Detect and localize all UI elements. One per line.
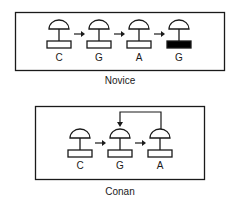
stamp-base — [127, 41, 151, 48]
stamp: A — [127, 20, 151, 63]
feedback-loop-arrow — [120, 112, 161, 129]
arrow-head — [142, 140, 146, 146]
stamp-letter: G — [116, 160, 124, 171]
stamp-base-filled — [167, 41, 191, 48]
stamp-base — [68, 150, 92, 157]
stamp: G — [108, 129, 132, 171]
stamp-base — [47, 41, 71, 48]
conan-panel: CGA Conan — [36, 107, 205, 198]
stamp: G — [87, 20, 111, 63]
stamp-letter: A — [157, 160, 164, 171]
stamp-dome — [169, 20, 189, 29]
stamp-dome — [129, 20, 149, 29]
novice-stamps: CGAG — [47, 20, 191, 63]
stamp-base — [108, 150, 132, 157]
stamp-dome — [49, 20, 69, 29]
stamp-dome — [89, 20, 109, 29]
arrow-head — [81, 31, 85, 37]
arrow-head — [117, 122, 123, 127]
novice-caption: Novice — [105, 75, 136, 86]
stamp-letter: G — [95, 52, 103, 63]
conan-stamps: CGA — [68, 112, 172, 171]
arrow-head — [161, 31, 165, 37]
stamp-dome — [110, 129, 130, 138]
stamp: A — [148, 129, 172, 171]
conan-caption: Conan — [105, 186, 134, 197]
stamp: C — [68, 129, 92, 171]
stamp-dome — [150, 129, 170, 138]
stamp-base — [87, 41, 111, 48]
arrow-head — [102, 140, 106, 146]
stamp: C — [47, 20, 71, 63]
stamp: G — [167, 20, 191, 63]
stamp-letter: C — [76, 160, 83, 171]
stamp-letter: C — [55, 52, 62, 63]
arrow-head — [121, 31, 125, 37]
novice-panel: CGAG Novice — [16, 13, 225, 87]
diagram-canvas: CGAG Novice CGA Conan — [0, 0, 240, 201]
stamp-dome — [70, 129, 90, 138]
stamp-letter: G — [175, 52, 183, 63]
stamp-base — [148, 150, 172, 157]
stamp-letter: A — [136, 52, 143, 63]
